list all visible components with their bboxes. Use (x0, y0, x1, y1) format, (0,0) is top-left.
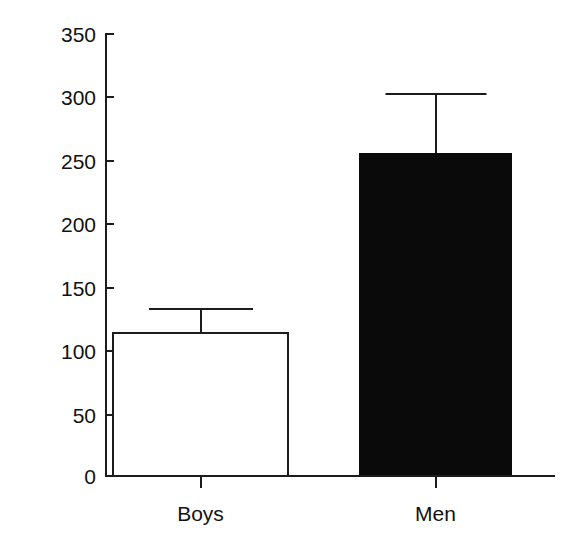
x-axis-spine (105, 475, 555, 477)
y-tick-300: 300 (105, 96, 114, 98)
x-tick-boys (200, 477, 202, 488)
y-tick-150: 150 (105, 287, 114, 289)
y-tick-250: 250 (105, 160, 114, 162)
y-tick-label-100: 100 (61, 341, 96, 362)
y-axis-label: Percent change from rest (0, 0, 36, 533)
error-bar-boys (112, 308, 289, 332)
bar-boys[interactable] (112, 332, 289, 475)
x-tick-label-boys: Boys (177, 503, 224, 524)
y-tick-label-50: 50 (73, 404, 96, 425)
error-bar-men (359, 93, 512, 153)
plot-area: 350 300 250 200 150 100 50 0 (112, 33, 555, 477)
error-bar-boys-stem (200, 308, 202, 332)
y-tick-label-250: 250 (61, 150, 96, 171)
y-tick-0: 0 (105, 475, 114, 477)
y-tick-label-150: 150 (61, 277, 96, 298)
error-bar-boys-cap (149, 308, 253, 310)
error-bar-men-stem (435, 93, 437, 153)
x-tick-men (435, 477, 437, 488)
y-tick-label-200: 200 (61, 214, 96, 235)
bar-chart-figure: Percent change from rest 350 300 250 200… (0, 0, 576, 533)
y-tick-label-300: 300 (61, 87, 96, 108)
x-tick-label-men: Men (415, 503, 456, 524)
error-bar-men-cap (385, 93, 486, 95)
y-axis-spine (105, 33, 107, 477)
y-tick-350: 350 (105, 33, 114, 35)
y-tick-200: 200 (105, 223, 114, 225)
y-tick-label-0: 0 (84, 466, 96, 487)
bar-men[interactable] (359, 153, 512, 475)
y-tick-label-350: 350 (61, 24, 96, 45)
